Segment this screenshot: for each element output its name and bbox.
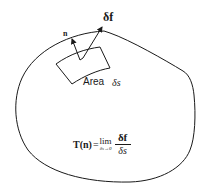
area-label: Area: [83, 76, 104, 87]
normal-label: n: [63, 29, 67, 38]
area-symbol: δs: [112, 77, 121, 88]
body-outline: [16, 31, 195, 182]
fraction-denominator: δs: [118, 146, 127, 156]
traction-diagram: n δf Area δs T(n) = lim δs→0 δf δs: [0, 0, 205, 193]
formula-fraction: δf δs: [115, 132, 131, 156]
formula-equals: =: [93, 139, 99, 150]
formula-lhs: T(n): [73, 139, 92, 150]
diagram-graphic: [0, 0, 205, 193]
formula-limit: lim δs→0: [100, 137, 112, 151]
limit-word: lim: [100, 137, 112, 146]
normal-arrow: [72, 39, 80, 60]
traction-formula: T(n) = lim δs→0 δf δs: [73, 132, 131, 156]
force-label: δf: [103, 10, 113, 25]
limit-subscript: δs→0: [100, 146, 112, 151]
fraction-numerator: δf: [118, 132, 127, 143]
